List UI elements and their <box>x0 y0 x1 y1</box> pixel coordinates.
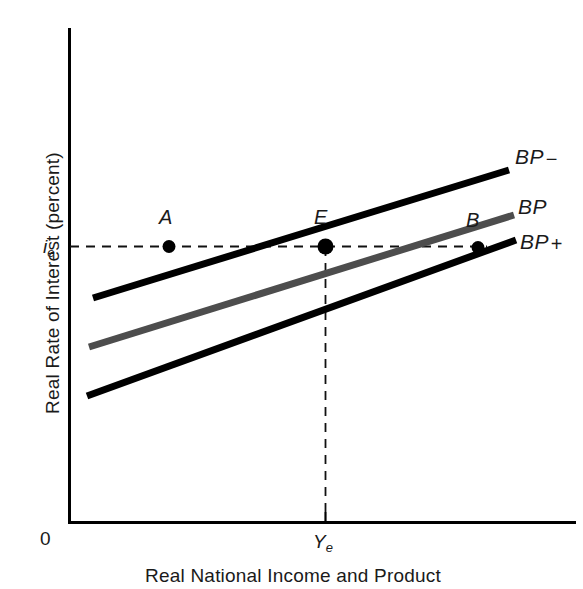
point-label-e: E <box>314 206 327 229</box>
x-tick-label-ye-base: Y <box>313 531 326 552</box>
plot-canvas <box>0 0 583 589</box>
x-tick-label-ye: Ye <box>313 531 333 555</box>
origin-label: 0 <box>40 528 51 550</box>
curve-label-bp-minus-sup: − <box>546 148 558 170</box>
point-label-a: A <box>159 206 172 229</box>
x-tick-label-ye-sub: e <box>326 540 333 555</box>
y-axis-title: Real Rate of Interest (percent) <box>42 73 64 493</box>
y-tick-label-ie: ie <box>43 236 54 260</box>
curve-label-bp-plus-base: BP <box>520 230 549 253</box>
curve-label-bp-minus: BP− <box>515 145 558 171</box>
curve-label-bp-minus-base: BP <box>515 145 544 168</box>
curve-label-bp-base: BP <box>518 195 547 218</box>
curve-label-bp-plus-sup: + <box>551 233 563 255</box>
bp-curve-figure: Real Rate of Interest (percent) Real Nat… <box>0 0 583 589</box>
curve-label-bp: BP <box>518 195 549 221</box>
point-marker-A <box>163 240 176 253</box>
point-marker-B <box>472 241 485 254</box>
point-label-b: B <box>466 209 479 232</box>
y-tick-label-ie-sub: e <box>47 245 54 260</box>
curve-bp-plus <box>87 240 516 396</box>
x-axis-title: Real National Income and Product <box>93 565 493 587</box>
point-marker-E <box>318 239 334 255</box>
curve-label-bp-plus: BP+ <box>520 230 563 256</box>
